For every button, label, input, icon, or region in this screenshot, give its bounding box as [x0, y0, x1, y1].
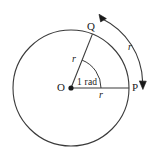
- label-radius-slanted: r: [72, 54, 76, 64]
- center-point-dot: [68, 85, 73, 90]
- label-angle-one-radian: 1 rad: [77, 78, 97, 88]
- label-radius-horizontal: r: [99, 90, 103, 100]
- label-point-q: Q: [87, 21, 95, 32]
- arrowhead-p-icon: [139, 81, 146, 90]
- arc-length-arrow-path: [103, 19, 143, 82]
- label-point-p: P: [132, 82, 138, 93]
- radian-diagram: O P Q r r r 1 rad: [0, 0, 155, 153]
- label-arc-length: r: [128, 42, 132, 52]
- label-point-o: O: [57, 82, 65, 93]
